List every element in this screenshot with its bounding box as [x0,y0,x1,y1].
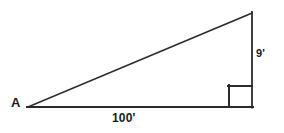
base-measurement-label: 100' [112,112,136,124]
vertex-a-label: A [11,96,21,109]
height-measurement-label: 9' [256,48,265,59]
triangle-diagram-figure: A 9' 100' [0,0,284,133]
hypotenuse-line [28,13,252,107]
triangle-drawing [0,0,284,133]
